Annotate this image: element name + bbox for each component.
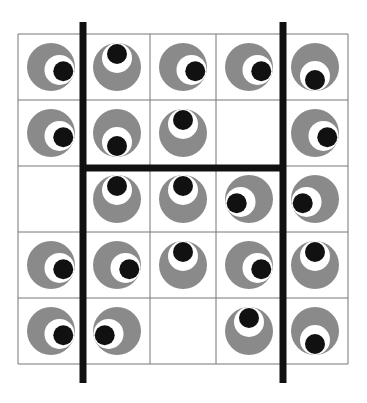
- pupil-dot: [53, 127, 73, 147]
- pupil-dot: [251, 259, 271, 279]
- pupil-dot: [95, 325, 115, 345]
- pupil-dot: [119, 259, 139, 279]
- cell-2-4[interactable]: [217, 101, 281, 165]
- cell-eyes: [19, 35, 347, 363]
- eye-puzzle-diagram: [0, 0, 367, 403]
- wall-vertical: [280, 22, 287, 383]
- pupil-dot: [107, 44, 127, 64]
- pupil-dot: [239, 308, 259, 328]
- pupil-dot: [53, 61, 73, 81]
- pupil-dot: [173, 176, 193, 196]
- cell-1-3[interactable]: [151, 35, 215, 99]
- pupil-dot: [251, 61, 271, 81]
- pupil-dot: [53, 259, 73, 279]
- cell-4-5[interactable]: [283, 233, 347, 297]
- cell-1-4[interactable]: [217, 35, 281, 99]
- pupil-dot: [305, 242, 325, 262]
- cell-4-4[interactable]: [217, 233, 281, 297]
- pupil-dot: [305, 70, 325, 90]
- pupil-dot: [185, 61, 205, 81]
- cell-1-1[interactable]: [19, 35, 83, 99]
- pupil-dot: [53, 325, 73, 345]
- pupil-dot: [173, 242, 193, 262]
- cell-hitbox[interactable]: [151, 299, 215, 363]
- cell-5-3[interactable]: [151, 299, 215, 363]
- pupil-dot: [173, 110, 193, 130]
- cell-2-1[interactable]: [19, 101, 83, 165]
- cell-4-2[interactable]: [85, 233, 149, 297]
- cell-4-1[interactable]: [19, 233, 83, 297]
- cell-4-3[interactable]: [151, 233, 215, 297]
- cell-3-3[interactable]: [151, 167, 215, 231]
- cell-5-4[interactable]: [217, 299, 281, 363]
- cell-5-2[interactable]: [85, 299, 149, 363]
- cell-2-3[interactable]: [151, 101, 215, 165]
- pupil-dot: [293, 193, 313, 213]
- cell-3-2[interactable]: [85, 167, 149, 231]
- wall-horizontal: [80, 165, 286, 172]
- pupil-dot: [305, 334, 325, 354]
- cell-1-5[interactable]: [283, 35, 347, 99]
- cell-hitbox[interactable]: [217, 101, 281, 165]
- cell-5-1[interactable]: [19, 299, 83, 363]
- cell-2-2[interactable]: [85, 101, 149, 165]
- pupil-dot: [107, 176, 127, 196]
- cell-3-4[interactable]: [217, 167, 281, 231]
- wall-vertical: [80, 22, 87, 383]
- cell-3-5[interactable]: [283, 167, 347, 231]
- cell-hitbox[interactable]: [19, 167, 83, 231]
- pupil-dot: [227, 193, 247, 213]
- cell-1-2[interactable]: [85, 35, 149, 99]
- pupil-dot: [317, 127, 337, 147]
- cell-2-5[interactable]: [283, 101, 347, 165]
- cell-5-5[interactable]: [283, 299, 347, 363]
- pupil-dot: [107, 136, 127, 156]
- cell-3-1[interactable]: [19, 167, 83, 231]
